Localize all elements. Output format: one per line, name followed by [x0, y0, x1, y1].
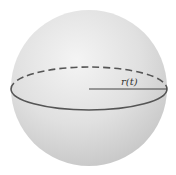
radius-label: r(t) — [121, 76, 138, 87]
sphere — [11, 10, 167, 166]
sphere-diagram: r(t) — [0, 0, 176, 175]
